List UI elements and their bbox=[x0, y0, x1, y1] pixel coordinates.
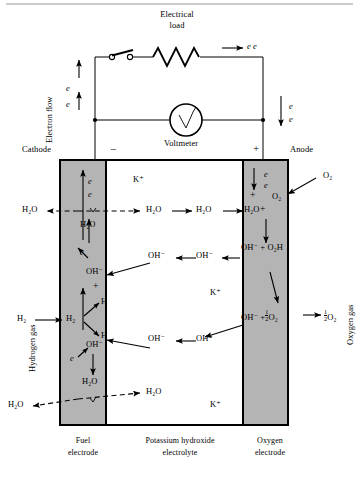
hydrogen-gas-label: Hydrogen gas bbox=[27, 325, 37, 372]
anode-oxygen-in-electrode: O₂ bbox=[272, 192, 281, 201]
electrolyte-water-bottom: H₂O bbox=[146, 387, 162, 396]
electrolyte-water-1: H₂O bbox=[146, 205, 162, 214]
electrolyte-caption-line1: Potassium hydroxide bbox=[120, 437, 240, 445]
voltmeter-icon bbox=[170, 104, 202, 136]
hydrogen-molecule-label: H₂ bbox=[66, 314, 75, 323]
electrolyte-hydroxide-2: OH⁻ bbox=[196, 251, 213, 260]
oxygen-electrode-caption-line1: Oxygen bbox=[240, 437, 300, 445]
anode-electron-1: e bbox=[264, 170, 268, 179]
electron-label-top: e e bbox=[247, 42, 257, 51]
junction-dot-right bbox=[261, 118, 265, 122]
hydrogen-atom-upper: H bbox=[101, 297, 107, 306]
anode-plus-right: + bbox=[260, 205, 265, 215]
electrical-load-label-line2: load bbox=[146, 21, 208, 30]
electrolyte-hydroxide-lower-1: OH⁻ bbox=[148, 334, 165, 343]
electrolyte-hydroxide-lower-2: OH⁻ bbox=[196, 334, 213, 343]
anode-water-label: H₂O bbox=[244, 205, 260, 214]
hydrogen-gas-inlet-label: H₂ bbox=[17, 314, 26, 323]
anode-label: Anode bbox=[290, 145, 313, 154]
cathode-electron-1: e bbox=[88, 177, 92, 186]
fuel-electrode-caption-line1: Fuel bbox=[53, 437, 113, 445]
water-out-left-label: H₂O bbox=[22, 205, 38, 214]
electrical-load-label-line1: Electrical bbox=[146, 10, 208, 19]
electron-label-right-upper: e bbox=[289, 102, 293, 111]
anode-reaction-lower-species: O₂ bbox=[268, 312, 277, 322]
switch-icon bbox=[109, 50, 133, 60]
cathode-hydroxide-upper: OH⁻ bbox=[86, 267, 103, 276]
cathode-electron-2: e bbox=[88, 190, 92, 199]
potassium-ion-bottom: K⁺ bbox=[210, 400, 221, 409]
electron-flow-label: Electron flow bbox=[44, 97, 54, 144]
cathode-water-lower: H₂O bbox=[82, 377, 98, 386]
anode-reaction-lower: OH⁻ +12O₂ bbox=[241, 309, 278, 322]
fuel-cell-diagram: Electrical load e e e e e e Electron flo… bbox=[0, 0, 359, 480]
cathode-hydroxide-lower: OH⁻ bbox=[86, 340, 103, 349]
potassium-ion-top: K⁺ bbox=[133, 175, 144, 184]
electron-label-left-lower: e bbox=[66, 100, 70, 109]
oxygen-product-species: O₂ bbox=[327, 312, 336, 322]
voltmeter-label: Voltmeter bbox=[164, 139, 198, 148]
cathode-electron-lower: e bbox=[70, 354, 74, 363]
electrolyte-hydroxide-1: OH⁻ bbox=[148, 251, 165, 260]
diagram-vector-layer bbox=[0, 0, 359, 480]
cathode-plus-sign: + bbox=[93, 282, 98, 292]
resistor-icon bbox=[153, 48, 199, 66]
anode-electron-2: e bbox=[264, 181, 268, 190]
anode-reaction-upper: OH⁻ + O₂H bbox=[241, 243, 283, 252]
anode-reaction-lower-text: OH⁻ + bbox=[241, 312, 265, 322]
cathode-label: Cathode bbox=[22, 145, 51, 154]
potassium-ion-mid: K⁺ bbox=[210, 288, 221, 297]
oxygen-gas-label: Oxygen gas bbox=[345, 305, 355, 345]
electrolyte-water-2: H₂O bbox=[196, 205, 212, 214]
water-out-bottom-left-label: H₂O bbox=[8, 400, 24, 409]
oxygen-electrode-caption-line2: electrode bbox=[240, 449, 300, 457]
negative-terminal-sign: − bbox=[110, 144, 116, 156]
electrolyte-caption-line2: electrolyte bbox=[120, 449, 240, 457]
oxygen-product-label: 12O₂ bbox=[324, 309, 337, 322]
electron-label-right-lower: e bbox=[289, 115, 293, 124]
oxygen-gas-inlet-label: O₂ bbox=[323, 171, 332, 180]
junction-dot-left bbox=[93, 118, 97, 122]
cathode-electron-mid: e bbox=[80, 248, 84, 257]
fuel-electrode-caption-line2: electrode bbox=[53, 449, 113, 457]
anode-plus-left: + bbox=[250, 191, 255, 201]
cathode-water-label: H₂O bbox=[80, 220, 96, 229]
positive-terminal-sign: + bbox=[253, 143, 259, 155]
arrow-oxygen-gas-in bbox=[288, 178, 316, 194]
electron-label-left-upper: e bbox=[66, 84, 70, 93]
